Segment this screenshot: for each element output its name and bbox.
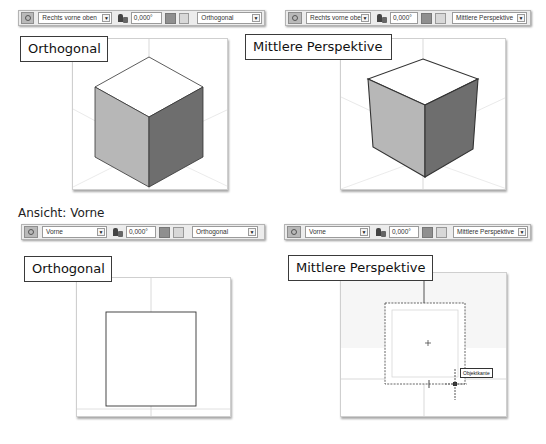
angle-input[interactable]: 0,000° — [126, 226, 156, 238]
chevron-down-icon[interactable]: ▼ — [360, 228, 368, 236]
view-cube-icon[interactable] — [288, 12, 302, 24]
toolbar-bottom-right: Vorne ▼ 0,000° Mittlere Perspektive ▼ — [284, 224, 531, 240]
view-cube-icon[interactable] — [21, 12, 34, 24]
toolbar-top-right: Rechts vorne oben ▼ 0,000° Mittlere Pers… — [285, 10, 531, 26]
view-cube-icon[interactable] — [24, 226, 38, 238]
viewport-front-perspective[interactable] — [340, 272, 507, 417]
chevron-down-icon[interactable]: ▼ — [97, 228, 105, 236]
view-select-value: Rechts vorne oben — [42, 13, 97, 23]
display-mode-toggle[interactable] — [159, 227, 170, 238]
view-cube-icon[interactable] — [287, 226, 301, 238]
projection-select-value: Mittlere Perspektive — [457, 227, 514, 237]
rotation-angle-icon — [375, 227, 387, 238]
display-mode-toggle[interactable] — [422, 227, 433, 238]
view-select-value: Vorne — [46, 227, 63, 237]
projection-select-value: Orthogonal — [196, 227, 228, 237]
angle-input[interactable]: 0,000° — [131, 12, 162, 24]
projection-select[interactable]: Mittlere Perspektive ▼ — [453, 226, 528, 238]
projection-select-value: Mittlere Perspektive — [456, 13, 513, 23]
chevron-down-icon[interactable]: ▼ — [518, 228, 526, 236]
display-mode-toggle[interactable] — [421, 13, 432, 24]
view-select-value: Vorne — [309, 227, 326, 237]
rotation-angle-icon — [376, 13, 388, 24]
chevron-down-icon[interactable]: ▼ — [248, 228, 256, 236]
rotation-angle-icon — [117, 13, 128, 24]
chevron-down-icon[interactable]: ▼ — [102, 14, 110, 22]
projection-label: Orthogonal — [20, 36, 108, 62]
section-heading: Ansicht: Vorne — [18, 206, 105, 220]
projection-select[interactable]: Orthogonal ▼ — [192, 226, 258, 238]
view-select[interactable]: Vorne ▼ — [42, 226, 107, 238]
projection-label: Mittlere Perspektive — [245, 34, 392, 60]
grid-toggle[interactable] — [173, 227, 184, 238]
square-front-drawing — [77, 278, 231, 417]
cube-perspective-drawing — [341, 39, 506, 190]
grid-toggle[interactable] — [436, 227, 447, 238]
angle-input[interactable]: 0,000° — [390, 12, 418, 24]
display-mode-toggle[interactable] — [165, 13, 176, 24]
view-select[interactable]: Rechts vorne oben ▼ — [38, 12, 112, 24]
viewport-front-orthogonal[interactable] — [76, 277, 231, 417]
grid-toggle[interactable] — [435, 13, 446, 24]
projection-label: Orthogonal — [24, 256, 112, 282]
projection-label: Mittlere Perspektive — [288, 255, 433, 281]
chevron-down-icon[interactable]: ▼ — [252, 14, 260, 22]
projection-select-value: Orthogonal — [201, 13, 233, 23]
toolbar-bottom-left: Vorne ▼ 0,000° Orthogonal ▼ — [21, 224, 265, 240]
view-select[interactable]: Rechts vorne oben ▼ — [306, 12, 371, 24]
snap-tooltip: Objektkante — [460, 368, 493, 378]
chevron-down-icon[interactable]: ▼ — [361, 14, 369, 22]
chevron-down-icon[interactable]: ▼ — [517, 14, 525, 22]
viewport-iso-perspective[interactable] — [340, 38, 506, 190]
projection-select[interactable]: Orthogonal ▼ — [197, 12, 262, 24]
angle-input[interactable]: 0,000° — [389, 226, 419, 238]
grid-toggle[interactable] — [179, 13, 190, 24]
projection-select[interactable]: Mittlere Perspektive ▼ — [452, 12, 527, 24]
rotation-angle-icon — [112, 227, 124, 238]
view-select[interactable]: Vorne ▼ — [305, 226, 370, 238]
toolbar-top-left: Rechts vorne oben ▼ 0,000° Orthogonal ▼ — [18, 10, 265, 26]
view-select-value: Rechts vorne oben — [310, 13, 365, 23]
square-perspective-drawing — [341, 273, 507, 417]
